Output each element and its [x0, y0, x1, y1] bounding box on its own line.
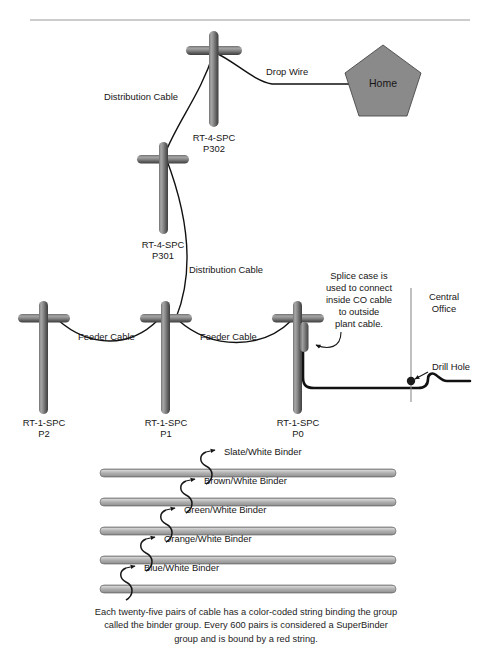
splice-case-line-1: used to connect — [326, 282, 393, 293]
pole-shaft — [39, 301, 48, 414]
pole-P2-label-line2: P2 — [38, 428, 49, 439]
drill-hole-leader — [415, 372, 428, 379]
binder-leader-arrow — [146, 537, 155, 539]
home-label: Home — [369, 77, 397, 89]
distribution-cable-lower-label: Distribution Cable — [189, 264, 263, 275]
pole-shaft — [159, 142, 168, 234]
pole-shaft — [161, 301, 170, 414]
binder-leader-arrow — [166, 508, 175, 510]
pole-P1-label-line2: P1 — [160, 428, 171, 439]
binder-label: Brown/White Binder — [204, 475, 287, 486]
pole-P301 — [137, 142, 189, 234]
drill-hole-marker — [407, 377, 415, 385]
binder-label: Slate/White Binder — [224, 446, 302, 457]
pole-P0-label-line2: P0 — [292, 428, 303, 439]
drop-wire-label: Drop Wire — [266, 66, 308, 77]
distribution-cable-upper-label: Distribution Cable — [104, 91, 178, 102]
caption-line-3: group and is bound by a red string. — [46, 633, 446, 646]
pole-P0-label-line1: RT-1-SPC — [277, 417, 320, 428]
binder-label: Blue/White Binder — [144, 562, 219, 573]
splice-case-line-2: inside CO cable — [326, 294, 392, 305]
binder-bar — [100, 585, 396, 593]
binder-string-hook — [121, 568, 132, 600]
splice-case-annotation: Splice case is used to connect inside CO… — [316, 270, 392, 347]
pole-P302-label-line2: P302 — [203, 143, 225, 154]
cable-lines — [58, 52, 352, 343]
pole-P2 — [18, 301, 70, 414]
pole-P302 — [186, 31, 242, 127]
binder-label: Green/White Binder — [184, 504, 266, 515]
caption-line-2: called the binder group. Every 600 pairs… — [46, 619, 446, 632]
pole-P302-label-line1: RT-4-SPC — [193, 132, 236, 143]
figure-caption: Each twenty-five pairs of cable has a co… — [46, 606, 446, 646]
binder-leader-arrow — [126, 566, 135, 568]
central-office-label-line1: Central — [429, 291, 459, 302]
splice-case-leader — [316, 332, 341, 347]
splice-case-icon — [300, 322, 309, 352]
pole-shaft — [209, 31, 219, 127]
binder-group: Slate/White Binder Brown/White Binder Gr… — [100, 446, 396, 600]
binder-label: Orange/White Binder — [164, 533, 252, 544]
drill-hole-label: Drill Hole — [432, 361, 470, 372]
central-office-label-line2: Office — [432, 303, 456, 314]
distribution-cable-lower-path — [166, 158, 187, 318]
splice-case-line-4: plant cable. — [335, 318, 383, 329]
feeder-cable-right-label: Feeder Cable — [200, 331, 257, 342]
binder-item-blue: Blue/White Binder — [100, 562, 396, 600]
pole-P301-label-line2: P301 — [152, 250, 174, 261]
caption-line-1: Each twenty-five pairs of cable has a co… — [46, 606, 446, 619]
pole-P2-label-line1: RT-1-SPC — [23, 417, 66, 428]
pole-P1 — [140, 301, 192, 414]
splice-case-line-3: to outside — [339, 306, 380, 317]
pole-P1-label-line1: RT-1-SPC — [145, 417, 188, 428]
co-entrance-cable-path — [303, 330, 470, 388]
binder-leader-arrow — [186, 479, 195, 481]
splice-case-line-0: Splice case is — [330, 270, 388, 281]
co-entrance-cable — [303, 330, 470, 388]
pole-P301-label-line1: RT-4-SPC — [142, 239, 185, 250]
outside-plant-diagram: RT-4-SPC P302 RT-4-SPC P301 RT-1-SPC P2 … — [0, 0, 492, 653]
feeder-cable-left-label: Feeder Cable — [78, 331, 135, 342]
pole-P0 — [272, 301, 324, 414]
pole-shaft — [293, 301, 302, 414]
figure-page: RT-4-SPC P302 RT-4-SPC P301 RT-1-SPC P2 … — [0, 0, 492, 653]
binder-leader-arrow — [206, 450, 215, 452]
